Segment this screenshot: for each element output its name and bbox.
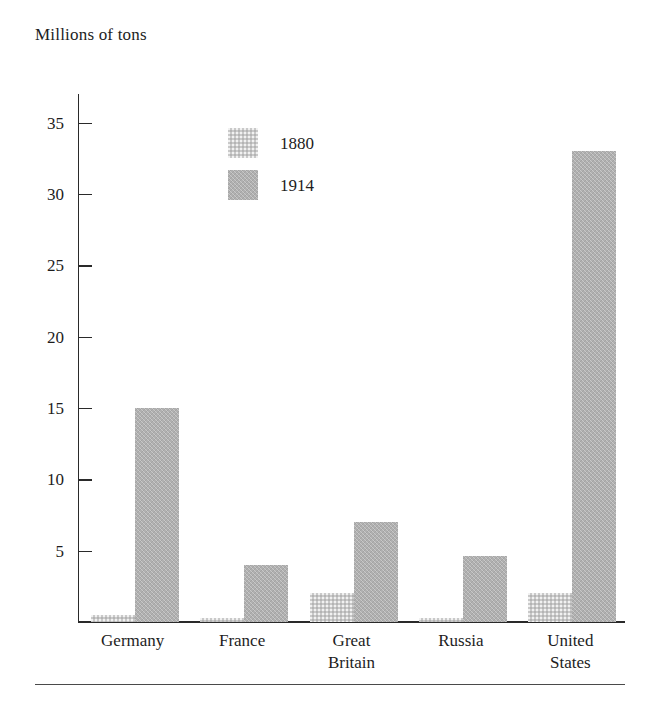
bar-great-britain-1914[interactable]: [354, 522, 398, 622]
legend-item-1880[interactable]: 1880: [228, 127, 314, 159]
x-category-label-germany: Germany: [78, 630, 187, 652]
bar-germany-1880[interactable]: [91, 615, 135, 622]
y-tick-label: 25: [47, 257, 64, 274]
bar-france-1880[interactable]: [200, 618, 244, 622]
x-category-label-line: Russia: [406, 630, 515, 652]
x-category-label-france: France: [187, 630, 296, 652]
page-title: Millions of tons: [35, 25, 147, 45]
legend-label: 1880: [280, 135, 314, 152]
bar-united-states-1914[interactable]: [572, 151, 616, 622]
bar-group: [310, 94, 398, 622]
x-category-label-line: United: [516, 630, 625, 652]
legend-swatch-1914: [228, 170, 258, 200]
y-tick-label: 20: [47, 328, 64, 345]
x-category-label-line: France: [187, 630, 296, 652]
legend-swatch-1880: [228, 128, 258, 158]
x-category-label-line: Great: [297, 630, 406, 652]
bottom-rule-divider: [35, 684, 625, 685]
bar-group: [419, 94, 507, 622]
bar-germany-1914[interactable]: [135, 408, 179, 622]
bar-united-states-1880[interactable]: [528, 593, 572, 622]
bar-russia-1914[interactable]: [463, 556, 507, 622]
legend-item-1914[interactable]: 1914: [228, 169, 314, 201]
y-tick-label: 35: [47, 114, 64, 131]
chart-legend: 18801914: [228, 127, 314, 211]
bar-group: [528, 94, 616, 622]
y-tick-label: 5: [56, 542, 65, 559]
x-category-label-great-britain: GreatBritain: [297, 630, 406, 674]
x-axis-category-labels: GermanyFranceGreatBritainRussiaUnitedSta…: [78, 630, 625, 686]
x-category-label-russia: Russia: [406, 630, 515, 652]
bar-great-britain-1880[interactable]: [310, 593, 354, 622]
y-tick-label: 15: [47, 399, 64, 416]
y-tick-label: 10: [47, 471, 64, 488]
chart-plot-area: 5101520253035: [78, 94, 625, 622]
x-category-label-line: Britain: [297, 652, 406, 674]
x-category-label-united-states: UnitedStates: [516, 630, 625, 674]
y-tick-label: 30: [47, 185, 64, 202]
bar-russia-1880[interactable]: [419, 618, 463, 622]
bar-france-1914[interactable]: [244, 565, 288, 622]
x-category-label-line: Germany: [78, 630, 187, 652]
bar-group: [91, 94, 179, 622]
legend-label: 1914: [280, 177, 314, 194]
bars-layer: [78, 94, 625, 622]
x-category-label-line: States: [516, 652, 625, 674]
